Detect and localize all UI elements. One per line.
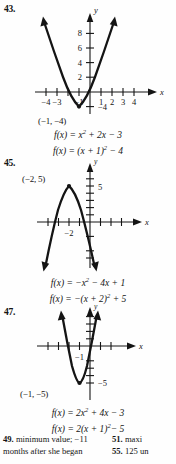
y-axis-arrow-47 <box>87 307 94 316</box>
y-axis-label-47: y <box>93 302 98 311</box>
equation-vertex-47: f(x) = 2(x + 1)2− 5 <box>0 420 176 436</box>
problem-43: 43. <box>0 0 176 152</box>
ytick-label: 2 <box>78 72 82 82</box>
answer-55-number: 55. <box>112 446 123 456</box>
y-axis-arrow-45 <box>87 163 94 172</box>
curve-arrow-right-43 <box>110 17 118 27</box>
xtick-label: −3 <box>52 97 61 107</box>
answer-51-text: maxi <box>125 434 142 446</box>
answer-row: 49. minimum value; −11 51. maxi <box>0 434 176 446</box>
x-axis-arrow-47 <box>127 343 136 350</box>
tick-labels-43: −4 −3 −1 1 2 3 4 8 6 4 2 −4 <box>41 28 136 111</box>
ytick-label-45: 5 <box>98 182 102 192</box>
problem-45-number: 45. <box>4 158 15 168</box>
answer-51: 51. maxi <box>112 434 142 446</box>
parabola-curve-45 <box>46 186 95 266</box>
xtick-label: 4 <box>132 97 137 107</box>
answer-55: 55. 125 un <box>112 446 149 458</box>
x-axis-arrow-45 <box>133 219 142 226</box>
ytick-label-47: −5 <box>98 378 107 388</box>
problem-43-svg: −4 −3 −1 1 2 3 4 8 6 4 2 −4 x y <box>18 4 168 116</box>
answer-49: 49. minimum value; −11 <box>3 434 88 446</box>
answer-49-number: 49. <box>3 434 14 444</box>
x-axis-label-47: x <box>138 341 143 351</box>
y-axis-label-43: y <box>93 5 98 15</box>
equation-standard-43: f(x) = x2 + 2x − 3 <box>0 126 176 142</box>
problem-47-vertex-label: (−1, −5) <box>20 389 48 399</box>
y-axis-label-45: y <box>93 157 98 166</box>
problem-43-vertex-label: (−1, −4) <box>38 116 66 126</box>
curve-arrow-right-47 <box>93 311 101 321</box>
vertex-point-45 <box>67 184 71 188</box>
answer-49-continued: months after she began <box>3 446 82 458</box>
curve-arrow-left-43 <box>40 17 48 27</box>
xtick-label: 3 <box>121 97 125 107</box>
ytick-label: 8 <box>78 28 82 38</box>
xtick-label: −4 <box>41 97 51 107</box>
xtick-label-45: −2 <box>64 228 73 238</box>
curve-arrow-right-45 <box>91 261 99 271</box>
equation-standard-47: f(x) = 2x2 + 4x − 3 <box>0 404 176 420</box>
problem-43-number: 43. <box>4 4 15 14</box>
answer-row: months after she began 55. 125 un <box>0 446 176 458</box>
answers-text-block: 49. minimum value; −11 51. maxi months a… <box>0 434 176 457</box>
answer-key-page: 43. <box>0 0 176 464</box>
answer-55-text: 125 un <box>125 446 149 458</box>
ytick-label: 6 <box>78 43 82 53</box>
vertex-point-47 <box>77 381 81 385</box>
answer-51-number: 51. <box>112 434 123 444</box>
xtick-label: 2 <box>110 97 114 107</box>
problem-45-vertex-label: (−2, 5) <box>22 174 45 184</box>
problem-43-graph: −4 −3 −1 1 2 3 4 8 6 4 2 −4 x y <box>18 4 168 116</box>
problem-47-number: 47. <box>4 307 15 317</box>
equation-standard-45: f(x) = −x2 − 4x + 1 <box>0 274 176 290</box>
curve-arrow-left-45 <box>42 261 50 271</box>
answer-49-continued-text: months after she began <box>3 446 82 456</box>
answer-49-text: minimum value; −11 <box>16 434 88 444</box>
curve-arrow-left-47 <box>58 311 66 321</box>
ytick-label-negative: −4 <box>98 102 108 112</box>
y-axis-arrow-43 <box>87 13 94 22</box>
x-axis-label-45: x <box>144 217 149 227</box>
vertex-point-43 <box>77 105 81 109</box>
xtick-label-47: −1 <box>75 352 84 362</box>
x-axis-label-43: x <box>159 87 164 97</box>
x-axis-arrow-43 <box>148 89 157 96</box>
problem-47: 47. <box>0 298 176 434</box>
problem-47-equations: f(x) = 2x2 + 4x − 3 f(x) = 2(x + 1)2− 5 <box>0 404 176 435</box>
ytick-label: 4 <box>78 58 83 68</box>
problem-45: 45. <box>0 152 176 298</box>
